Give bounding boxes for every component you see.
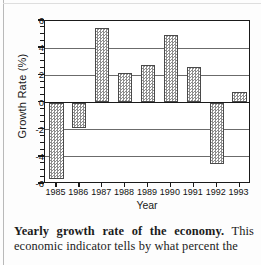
bar-1991	[187, 67, 201, 103]
figure-page: Growth Rate (%) 6420-2-4-6 Year 19851986…	[0, 0, 261, 265]
bar-1985	[49, 103, 63, 179]
x-tick-label-1993: 1993	[224, 187, 254, 197]
y-tick-label-2: 2	[10, 69, 44, 80]
bar-1993	[232, 92, 246, 103]
figure-caption: Yearly growth rate of the economy. This …	[14, 224, 254, 253]
y-axis: 6420-2-4-6	[0, 4, 44, 216]
caption-lead: Yearly growth rate of the economy.	[14, 224, 224, 238]
bar-1987	[95, 28, 109, 102]
x-axis-title: Year	[44, 199, 250, 211]
y-tick-label--4: -4	[10, 150, 44, 161]
bar-1989	[141, 65, 155, 102]
y-tick-label--6: -6	[10, 178, 44, 189]
bar-1992	[210, 103, 224, 164]
y-tick-label-6: 6	[10, 15, 44, 26]
y-tick-label-0: 0	[10, 96, 44, 107]
gridline-4	[45, 48, 249, 49]
bar-1990	[164, 35, 178, 102]
bar-1988	[118, 73, 132, 102]
bar-chart-figure: Growth Rate (%) 6420-2-4-6 Year 19851986…	[0, 4, 261, 216]
y-tick-label--2: -2	[10, 123, 44, 134]
y-tick-label-4: 4	[10, 42, 44, 53]
plot-area	[44, 20, 250, 183]
bar-1986	[72, 103, 86, 129]
